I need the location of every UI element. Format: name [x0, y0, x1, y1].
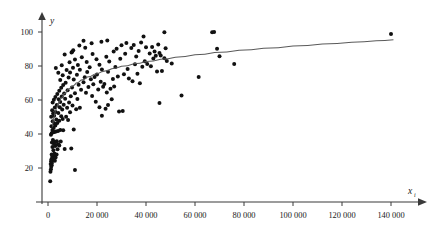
data-point: [61, 128, 65, 132]
data-point: [106, 103, 110, 107]
data-point: [135, 72, 139, 76]
scatter-plot-canvas: 020 00040 00060 00080 000100 000120 0001…: [0, 0, 431, 234]
x-axis-label: x: [407, 186, 413, 196]
data-point: [97, 105, 101, 109]
data-point: [104, 107, 108, 111]
data-point: [72, 78, 76, 82]
data-point: [100, 114, 104, 118]
data-point: [71, 66, 75, 70]
y-tick-label: 100: [20, 28, 33, 37]
data-point: [137, 49, 141, 53]
x-axis-ticks: 020 00040 00060 00080 000100 000120 0001…: [46, 202, 405, 220]
data-point: [56, 147, 60, 151]
data-point: [51, 138, 55, 142]
data-point: [111, 77, 115, 81]
data-point: [144, 45, 148, 49]
x-tick-label: 80 000: [232, 211, 255, 220]
data-point: [117, 110, 121, 114]
data-point: [104, 55, 108, 59]
data-point: [78, 106, 82, 110]
data-point: [90, 94, 94, 98]
data-point: [66, 118, 70, 122]
data-point: [132, 43, 136, 47]
data-point: [389, 32, 393, 36]
data-point: [118, 57, 122, 61]
y-axis-ticks: 20406080100: [20, 28, 42, 173]
data-point: [74, 107, 78, 111]
data-point: [85, 70, 89, 74]
data-point: [94, 100, 98, 104]
data-point: [121, 109, 125, 113]
data-point: [55, 152, 59, 156]
data-point: [107, 60, 111, 64]
data-points-group: [48, 30, 393, 183]
data-point: [82, 80, 86, 84]
data-point: [64, 115, 68, 119]
data-point: [75, 73, 79, 77]
data-point: [127, 77, 131, 81]
data-point: [95, 57, 99, 61]
data-point: [54, 118, 58, 122]
y-axis-label: y: [49, 16, 55, 26]
data-point: [131, 79, 135, 83]
y-tick-label: 40: [25, 130, 33, 139]
data-point: [54, 66, 58, 70]
data-point: [102, 82, 106, 86]
data-point: [86, 85, 90, 89]
data-point: [76, 63, 80, 67]
data-point: [218, 54, 222, 58]
data-point: [97, 63, 101, 67]
data-point: [148, 51, 152, 55]
data-point: [65, 106, 69, 110]
data-point: [88, 65, 92, 69]
data-point: [134, 54, 138, 58]
data-point: [89, 77, 93, 81]
data-point: [100, 67, 104, 71]
data-point: [79, 88, 83, 92]
data-point: [55, 92, 59, 96]
data-point: [156, 43, 160, 47]
data-point: [197, 75, 201, 79]
data-point: [62, 103, 66, 107]
data-point: [142, 34, 146, 38]
data-point: [73, 58, 77, 62]
data-point: [105, 39, 109, 43]
data-point: [162, 30, 166, 34]
x-tick-label: 20 000: [85, 211, 108, 220]
data-point: [73, 168, 77, 172]
data-point: [65, 68, 69, 72]
data-point: [71, 48, 75, 52]
x-tick-label: 40 000: [134, 211, 157, 220]
data-point: [154, 54, 158, 58]
data-point: [69, 94, 73, 98]
x-tick-label: 60 000: [183, 211, 206, 220]
data-point: [124, 41, 128, 45]
x-tick-label: 140 000: [377, 211, 404, 220]
data-point: [68, 70, 72, 74]
x-axis-arrowhead: [418, 198, 427, 206]
data-point: [58, 78, 62, 82]
data-point: [120, 43, 124, 47]
data-point: [59, 139, 63, 143]
data-point: [157, 51, 161, 55]
data-point: [63, 147, 67, 151]
y-tick-label: 80: [25, 62, 33, 71]
data-point: [61, 73, 65, 77]
data-point: [160, 69, 164, 73]
data-point: [78, 68, 82, 72]
data-point: [72, 128, 76, 132]
data-point: [56, 71, 60, 75]
data-point: [153, 49, 157, 53]
y-tick-label: 20: [25, 164, 33, 173]
data-point: [112, 49, 116, 53]
data-point: [115, 47, 119, 51]
data-point: [90, 41, 94, 45]
data-point: [180, 94, 184, 98]
x-axis-label-subscript: i: [414, 192, 416, 198]
data-point: [64, 81, 68, 85]
data-point: [55, 139, 59, 143]
data-point: [157, 101, 161, 105]
data-point: [164, 46, 168, 50]
data-point: [80, 55, 84, 59]
scatter-chart-figure: 020 00040 00060 00080 000100 000120 0001…: [0, 0, 431, 234]
